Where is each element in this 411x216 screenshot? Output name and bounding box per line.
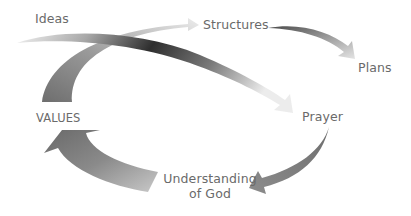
node-label-prayer: Prayer — [302, 110, 343, 124]
arrow-prayer-to-understanding — [249, 127, 329, 194]
node-label-structures: Structures — [203, 18, 269, 32]
cycle-diagram: Ideas Structures Plans Prayer Understand… — [0, 0, 411, 216]
arrow-understanding-to-values — [44, 130, 158, 192]
node-label-plans: Plans — [358, 61, 392, 75]
node-label-understanding-line2: of God — [160, 186, 260, 201]
arrow-structures-to-plans — [268, 26, 355, 59]
node-label-ideas: Ideas — [35, 12, 69, 26]
node-label-understanding-of-god: Understanding of God — [160, 171, 260, 201]
node-label-values: VALUES — [36, 111, 80, 125]
arrow-values-to-structures — [42, 18, 199, 102]
node-label-understanding-line1: Understanding — [160, 171, 260, 186]
